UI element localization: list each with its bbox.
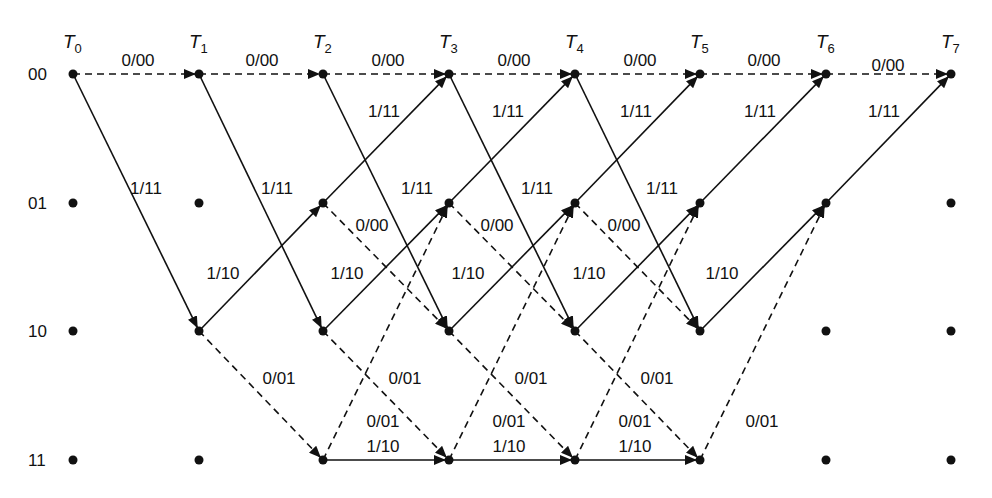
branch-label: 1/11 bbox=[368, 102, 400, 121]
node-t1-11 bbox=[195, 456, 204, 465]
branch-label: 1/10 bbox=[366, 437, 399, 456]
node-t3-11 bbox=[445, 456, 454, 465]
edge-t6-01-to-00 bbox=[826, 77, 948, 203]
branch-label: 0/01 bbox=[618, 412, 651, 431]
node-t4-00 bbox=[571, 70, 580, 79]
node-t6-00 bbox=[822, 70, 831, 79]
branch-label: 1/11 bbox=[620, 102, 652, 121]
branch-label: 1/10 bbox=[206, 264, 239, 283]
branch-label: 0/01 bbox=[262, 369, 295, 388]
branch-label: 0/01 bbox=[492, 412, 525, 431]
node-t3-01 bbox=[445, 199, 454, 208]
edge-t1-10-to-11 bbox=[199, 331, 320, 457]
branch-label: 1/10 bbox=[572, 264, 605, 283]
time-label-t0: T0 bbox=[63, 31, 82, 56]
branch-label: 0/00 bbox=[371, 51, 404, 70]
time-label-t1: T1 bbox=[189, 31, 208, 56]
branch-labels: 0/000/000/000/000/000/000/001/111/111/11… bbox=[121, 51, 904, 456]
branch-label: 1/11 bbox=[261, 179, 293, 198]
node-t3-10 bbox=[445, 327, 454, 336]
node-t1-01 bbox=[195, 199, 204, 208]
branch-label: 0/00 bbox=[623, 51, 656, 70]
node-t7-11 bbox=[947, 456, 956, 465]
node-t6-11 bbox=[822, 456, 831, 465]
branch-label: 1/11 bbox=[868, 102, 900, 121]
time-label-t7: T7 bbox=[941, 31, 960, 56]
edge-t0-00-to-10 bbox=[73, 74, 197, 327]
node-t6-01 bbox=[822, 199, 831, 208]
time-label-t6: T6 bbox=[816, 31, 835, 56]
node-t2-10 bbox=[319, 327, 328, 336]
trellis-svg: T0T1T2T3T4T5T6T7 00011011 0/000/000/000/… bbox=[0, 0, 992, 498]
branch-label: 0/01 bbox=[514, 369, 547, 388]
branch-label: 1/10 bbox=[330, 264, 363, 283]
branch-label: 0/00 bbox=[121, 51, 154, 70]
node-t5-00 bbox=[696, 70, 705, 79]
node-t6-10 bbox=[822, 327, 831, 336]
time-label-t4: T4 bbox=[565, 31, 584, 56]
node-t5-10 bbox=[696, 327, 705, 336]
node-t3-00 bbox=[445, 70, 454, 79]
branch-label: 0/00 bbox=[497, 51, 530, 70]
edge-t1-00-to-10 bbox=[199, 74, 321, 327]
branch-label: 0/00 bbox=[245, 51, 278, 70]
branch-label: 0/01 bbox=[388, 369, 421, 388]
branch-label: 1/11 bbox=[492, 102, 524, 121]
branch-label: 1/10 bbox=[705, 264, 738, 283]
branch-label: 0/01 bbox=[366, 412, 399, 431]
branch-label: 1/11 bbox=[130, 179, 162, 198]
branch-label: 1/11 bbox=[521, 179, 553, 198]
node-t0-11 bbox=[69, 456, 78, 465]
node-t1-10 bbox=[195, 327, 204, 336]
node-t7-10 bbox=[947, 327, 956, 336]
branch-label: 0/00 bbox=[355, 216, 388, 235]
time-label-t2: T2 bbox=[313, 31, 332, 56]
state-label-00: 00 bbox=[28, 65, 47, 84]
branch-label: 0/00 bbox=[747, 51, 780, 70]
node-t5-01 bbox=[696, 199, 705, 208]
node-t4-01 bbox=[571, 199, 580, 208]
node-t5-11 bbox=[696, 456, 705, 465]
branch-label: 0/00 bbox=[871, 56, 904, 75]
state-label-11: 11 bbox=[28, 451, 46, 470]
node-t1-00 bbox=[195, 70, 204, 79]
time-label-t5: T5 bbox=[690, 31, 709, 56]
node-t2-01 bbox=[319, 199, 328, 208]
branch-label: 1/10 bbox=[451, 264, 484, 283]
node-t4-11 bbox=[571, 456, 580, 465]
branch-label: 0/01 bbox=[640, 369, 673, 388]
state-label-10: 10 bbox=[28, 322, 47, 341]
time-label-t3: T3 bbox=[439, 31, 458, 56]
node-t0-01 bbox=[69, 199, 78, 208]
node-t0-00 bbox=[69, 70, 78, 79]
edge-t4-01-to-00 bbox=[575, 77, 697, 203]
trellis-edges bbox=[73, 74, 948, 460]
node-t7-00 bbox=[947, 70, 956, 79]
node-t4-10 bbox=[571, 327, 580, 336]
branch-label: 1/11 bbox=[744, 102, 776, 121]
state-label-01: 01 bbox=[28, 194, 47, 213]
edge-t5-01-to-00 bbox=[700, 77, 823, 203]
trellis-diagram: T0T1T2T3T4T5T6T7 00011011 0/000/000/000/… bbox=[0, 0, 992, 498]
state-labels: 00011011 bbox=[28, 65, 47, 470]
node-t2-00 bbox=[319, 70, 328, 79]
node-t0-10 bbox=[69, 327, 78, 336]
branch-label: 1/10 bbox=[492, 437, 525, 456]
branch-label: 1/11 bbox=[646, 179, 678, 198]
branch-label: 0/00 bbox=[480, 216, 513, 235]
edge-t3-01-to-00 bbox=[449, 77, 572, 203]
node-t2-11 bbox=[319, 456, 328, 465]
branch-label: 0/00 bbox=[607, 216, 640, 235]
branch-label: 1/10 bbox=[618, 437, 651, 456]
branch-label: 1/11 bbox=[401, 179, 433, 198]
branch-label: 0/01 bbox=[745, 412, 778, 431]
node-t7-01 bbox=[947, 199, 956, 208]
